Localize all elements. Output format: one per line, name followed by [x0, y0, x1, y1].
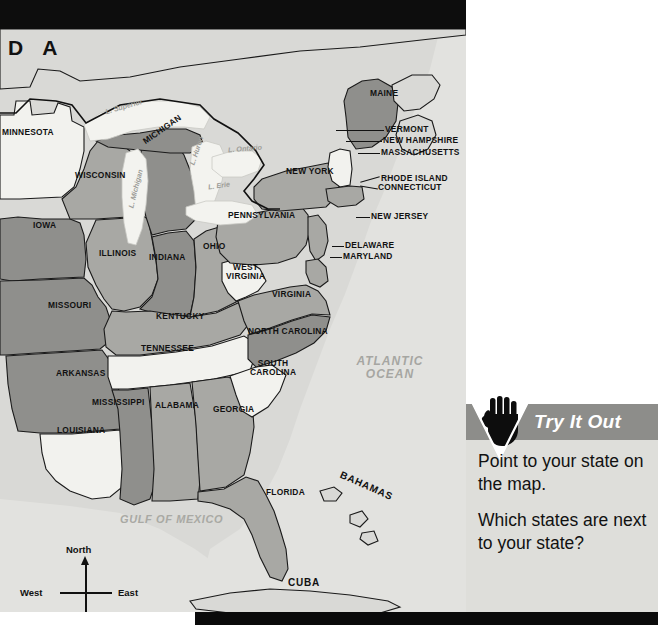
state-label-ohio: OHIO — [203, 242, 225, 251]
state-label-pennsylvania: PENNSYLVANIA — [228, 211, 295, 220]
bottom-black-bar — [195, 612, 658, 625]
state-label-iowa: IOWA — [33, 221, 56, 230]
compass-rose: North South West East — [38, 545, 158, 613]
state-label-mississippi: MISSISSIPPI — [92, 398, 145, 407]
state-label-connecticut: CONNECTICUT — [378, 183, 442, 192]
leader-line-massachusetts — [358, 153, 380, 154]
state-label-florida: FLORIDA — [266, 488, 305, 497]
compass-label-west: West — [20, 587, 43, 598]
state-label-south-carolina: SOUTH CAROLINA — [250, 359, 296, 377]
ocean-label-atlantic: ATLANTIC OCEAN — [340, 355, 440, 380]
state-label-minnesota: MINNESOTA — [2, 128, 54, 137]
compass-label-east: East — [118, 587, 138, 598]
try-it-out-panel: Try It Out Point to your state on the ma… — [466, 404, 658, 612]
state-label-new-york: NEW YORK — [286, 167, 334, 176]
leader-line-vermont — [336, 130, 384, 131]
state-label-delaware: DELAWARE — [345, 241, 394, 250]
state-label-arkansas: ARKANSAS — [56, 369, 105, 378]
compass-north-arrow-icon — [81, 556, 89, 565]
compass-vertical-line — [85, 561, 87, 613]
state-label-wisconsin: WISCONSIN — [75, 171, 126, 180]
leader-line-maryland — [330, 257, 342, 258]
state-label-north-carolina: NORTH CAROLINA — [248, 327, 328, 336]
compass-label-north: North — [66, 544, 91, 555]
state-label-maryland: MARYLAND — [343, 252, 393, 261]
map-page: .ld{stroke:#1a1a1a;stroke-width:1.1;} .d… — [0, 0, 658, 625]
map-canvas[interactable]: .ld{stroke:#1a1a1a;stroke-width:1.1;} .d… — [0, 29, 466, 613]
island-label-cuba: CUBA — [288, 578, 320, 589]
state-label-georgia: GEORGIA — [213, 405, 254, 414]
right-margin — [466, 29, 658, 404]
leader-line-delaware — [332, 246, 344, 247]
state-label-vermont: VERMONT — [385, 125, 429, 134]
state-label-new-hampshire: NEW HAMPSHIRE — [383, 136, 458, 145]
leader-line-new-jersey — [356, 217, 370, 218]
state-label-maine: MAINE — [370, 89, 398, 98]
state-label-missouri: MISSOURI — [48, 301, 91, 310]
state-label-virginia: VIRGINIA — [272, 290, 311, 299]
state-label-illinois: ILLINOIS — [99, 249, 136, 258]
state-label-tennessee: TENNESSEE — [141, 344, 194, 353]
try-it-out-paragraph-2: Which states are next to your state? — [478, 509, 656, 555]
state-label-alabama: ALABAMA — [155, 401, 199, 410]
ocean-label-gulf-of-mexico: GULF OF MEXICO — [120, 514, 223, 526]
try-it-out-body: Point to your state on the map. Which st… — [478, 450, 656, 555]
state-label-massachusetts: MASSACHUSETTS — [381, 148, 460, 157]
state-label-new-jersey: NEW JERSEY — [371, 212, 428, 221]
top-black-bar — [0, 0, 466, 29]
state-label-louisiana: LOUISIANA — [57, 426, 105, 435]
state-label-indiana: INDIANA — [149, 253, 186, 262]
try-it-out-title: Try It Out — [534, 411, 621, 433]
map-graphic: .ld{stroke:#1a1a1a;stroke-width:1.1;} .d… — [0, 29, 466, 613]
page-corner-code: D A — [8, 36, 64, 60]
compass-horizontal-line — [60, 592, 112, 594]
leader-line-new-hampshire — [346, 141, 382, 142]
bottom-white-strip — [0, 612, 195, 625]
state-label-west-virginia: WEST VIRGINIA — [226, 263, 265, 281]
state-label-kentucky: KENTUCKY — [156, 312, 205, 321]
try-it-out-paragraph-1: Point to your state on the map. — [478, 450, 656, 496]
